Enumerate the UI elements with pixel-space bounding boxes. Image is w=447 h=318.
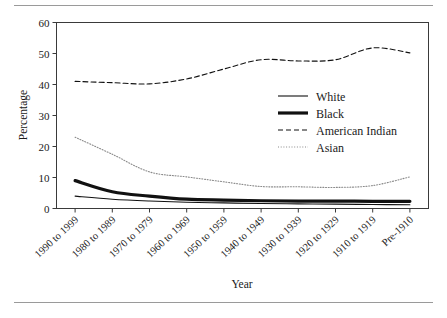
series-line-asian (75, 137, 410, 187)
series-line-black (75, 181, 410, 202)
x-axis-tick-labels: 1990 to 19991980 to 19891970 to 19791960… (32, 214, 415, 260)
y-axis-ticks (53, 23, 57, 209)
legend-label-asian: Asian (316, 141, 344, 155)
figure-container: 0102030405060 1990 to 19991980 to 198919… (0, 0, 447, 318)
y-axis-title: Percentage (17, 90, 30, 140)
line-chart: 0102030405060 1990 to 19991980 to 198919… (0, 0, 447, 318)
y-tick-label: 50 (39, 48, 51, 60)
chart-legend: WhiteBlackAmerican IndianAsian (278, 90, 397, 155)
plot-frame (57, 23, 429, 209)
y-tick-label: 60 (39, 17, 51, 29)
x-tick-label: Pre-1910 (380, 214, 416, 248)
y-tick-label: 30 (39, 110, 51, 122)
legend-label-black: Black (316, 107, 344, 121)
y-tick-label: 0 (44, 203, 50, 215)
y-tick-label: 40 (39, 79, 51, 91)
y-tick-label: 20 (39, 141, 51, 153)
x-axis-title: Year (231, 278, 252, 290)
x-axis-ticks (75, 209, 410, 213)
y-axis-tick-labels: 0102030405060 (39, 17, 51, 215)
series-line-american-indian (75, 48, 410, 84)
legend-label-american-indian: American Indian (316, 124, 397, 138)
y-tick-label: 10 (39, 172, 51, 184)
legend-label-white: White (316, 90, 345, 104)
